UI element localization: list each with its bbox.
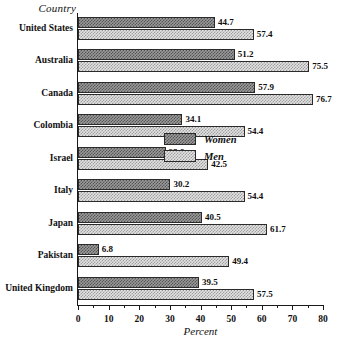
bar-value-label: 44.7 xyxy=(218,17,234,28)
x-tick-major xyxy=(109,305,110,310)
bar-value-label: 54.4 xyxy=(248,126,264,137)
bar-women xyxy=(78,212,202,223)
bar-women xyxy=(78,114,182,125)
bar-value-label: 57.9 xyxy=(258,82,274,93)
bar-men xyxy=(78,289,254,300)
bar-value-label: 51.2 xyxy=(238,49,254,60)
bar-value-label: 57.5 xyxy=(257,289,273,300)
cut-off-caption xyxy=(4,343,342,349)
bar-women xyxy=(78,147,166,158)
x-tick-minor xyxy=(277,305,278,308)
x-tick-minor xyxy=(155,305,156,308)
x-tick-minor xyxy=(124,305,125,308)
y-axis-title: Country xyxy=(0,2,76,14)
bar-value-label: 34.1 xyxy=(185,114,201,125)
category-label: Canada xyxy=(0,88,73,99)
bar-group: Italy30.254.4 xyxy=(78,179,323,203)
bar-group: Colombia34.154.4 xyxy=(78,114,323,138)
legend-swatch-women-icon xyxy=(164,133,196,145)
x-tick-minor xyxy=(93,305,94,308)
x-axis-title: Percent xyxy=(78,325,323,337)
plot-area: United States44.757.4Australia51.275.5Ca… xyxy=(78,13,323,305)
x-tick-label: 50 xyxy=(226,314,236,324)
x-tick-major xyxy=(231,305,232,310)
bar-group: Israel28.642.5 xyxy=(78,147,323,171)
category-label: Colombia xyxy=(0,120,73,131)
bar-value-label: 6.8 xyxy=(102,244,113,255)
bar-group: Canada57.976.7 xyxy=(78,82,323,106)
bar-women xyxy=(78,277,199,288)
category-label: Japan xyxy=(0,218,73,229)
x-tick-label: 40 xyxy=(196,314,206,324)
x-tick-minor xyxy=(246,305,247,308)
bar-women xyxy=(78,82,255,93)
x-tick-major xyxy=(262,305,263,310)
bar-group: Japan40.561.7 xyxy=(78,212,323,236)
bar-women xyxy=(78,49,235,60)
x-tick-label: 0 xyxy=(76,314,81,324)
x-tick-major xyxy=(323,305,324,310)
bar-value-label: 39.5 xyxy=(202,277,218,288)
x-tick-major xyxy=(201,305,202,310)
x-tick-major xyxy=(78,305,79,310)
bar-value-label: 57.4 xyxy=(257,29,273,40)
bar-women xyxy=(78,244,99,255)
x-tick-label: 70 xyxy=(288,314,298,324)
x-tick-label: 60 xyxy=(257,314,267,324)
x-tick-label: 20 xyxy=(135,314,145,324)
bar-men xyxy=(78,29,254,40)
bar-chart: Country United States44.757.4Australia51… xyxy=(0,0,346,349)
bar-group: United Kingdom39.557.5 xyxy=(78,277,323,301)
bar-value-label: 75.5 xyxy=(312,61,328,72)
bar-men xyxy=(78,61,309,72)
bar-men xyxy=(78,191,245,202)
bar-group: Australia51.275.5 xyxy=(78,49,323,73)
category-label: United States xyxy=(0,23,73,34)
legend-label-women: Women xyxy=(204,132,236,147)
bar-men xyxy=(78,224,267,235)
bar-value-label: 40.5 xyxy=(205,212,221,223)
legend-label-men: Men xyxy=(204,149,224,164)
bar-value-label: 54.4 xyxy=(248,191,264,202)
category-label: Australia xyxy=(0,55,73,66)
bar-value-label: 30.2 xyxy=(173,179,189,190)
x-tick-major xyxy=(292,305,293,310)
bar-women xyxy=(78,179,170,190)
category-label: Israel xyxy=(0,153,73,164)
bar-men xyxy=(78,94,313,105)
bar-group: Pakistan6.849.4 xyxy=(78,244,323,268)
legend-swatch-men-icon xyxy=(164,150,196,162)
x-tick-minor xyxy=(216,305,217,308)
bar-value-label: 76.7 xyxy=(316,94,332,105)
x-tick-major xyxy=(170,305,171,310)
x-tick-major xyxy=(139,305,140,310)
bar-value-label: 49.4 xyxy=(232,256,248,267)
x-tick-minor xyxy=(185,305,186,308)
category-label: Pakistan xyxy=(0,250,73,261)
x-tick-label: 10 xyxy=(104,314,114,324)
x-tick-label: 30 xyxy=(165,314,175,324)
category-label: Italy xyxy=(0,185,73,196)
x-tick-label: 80 xyxy=(318,314,328,324)
bar-value-label: 61.7 xyxy=(270,224,286,235)
bar-women xyxy=(78,17,215,28)
bar-group: United States44.757.4 xyxy=(78,17,323,41)
bar-men xyxy=(78,256,229,267)
category-label: United Kingdom xyxy=(0,283,73,294)
x-tick-minor xyxy=(308,305,309,308)
